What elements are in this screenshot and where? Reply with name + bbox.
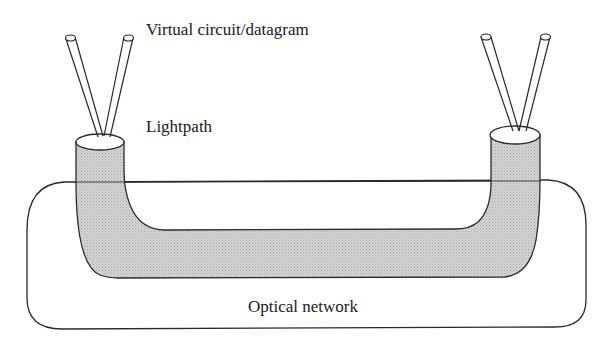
- label-virtual-circuit: Virtual circuit/datagram: [146, 20, 309, 39]
- label-optical-network: Optical network: [248, 297, 358, 316]
- fiber-icon: [519, 34, 551, 131]
- lightpath-tube: [76, 135, 540, 278]
- fiber-icon: [104, 35, 134, 137]
- right-endpoint: [481, 34, 551, 144]
- fiber-icon: [66, 35, 104, 137]
- fiber-icon: [481, 34, 519, 131]
- left-endpoint: [66, 35, 134, 150]
- label-lightpath: Lightpath: [146, 117, 213, 136]
- lightpath-diagram: Virtual circuit/datagram Lightpath Optic…: [0, 0, 615, 347]
